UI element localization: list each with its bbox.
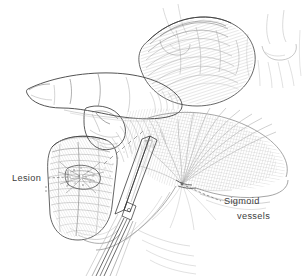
label-lesion-text: Lesion <box>12 173 41 183</box>
label-sigmoid-vessels-line1: Sigmoid <box>224 196 260 206</box>
illustration-canvas: Lesion Sigmoid vessels <box>0 0 305 276</box>
surgical-illustration-figure: Lesion Sigmoid vessels <box>0 0 305 276</box>
label-sigmoid-vessels: Sigmoid vessels <box>186 186 270 221</box>
label-sigmoid-vessels-line2: vessels <box>237 211 270 221</box>
finger-thumb-web <box>92 113 110 132</box>
lower-tissue-shadow <box>138 230 196 274</box>
sigmoid-colon-loop <box>138 10 264 110</box>
mesentery-fan <box>96 100 292 250</box>
